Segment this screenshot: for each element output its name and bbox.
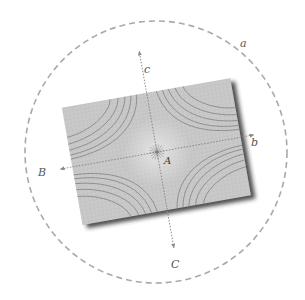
graph-paper bbox=[43, 35, 271, 265]
label-axis-B: B bbox=[37, 166, 46, 179]
label-axis-C: C bbox=[171, 258, 180, 271]
label-axis-b: b bbox=[251, 136, 258, 149]
label-point-A: A bbox=[163, 155, 171, 166]
diagram-canvas: a c b B C A bbox=[0, 0, 305, 300]
label-circle-a: a bbox=[240, 37, 247, 50]
label-axis-c: c bbox=[144, 63, 150, 76]
